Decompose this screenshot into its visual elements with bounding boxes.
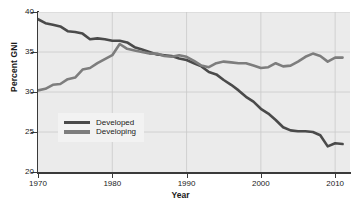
x-tick-mark xyxy=(261,173,262,178)
x-axis-title: Year xyxy=(0,190,361,200)
plot-area xyxy=(38,12,350,172)
chart-container: Percent GNI Year 2025303540 197019801990… xyxy=(0,0,361,205)
series-line-developing xyxy=(38,44,343,90)
y-tick-label: 40 xyxy=(14,8,34,16)
x-tick-label: 2000 xyxy=(241,180,281,188)
legend-swatch-developed xyxy=(64,121,90,125)
legend-item-developing: Developing xyxy=(64,128,136,136)
x-tick-mark xyxy=(112,173,113,178)
x-tick-label: 1980 xyxy=(92,180,132,188)
x-tick-mark xyxy=(38,173,39,178)
chart-legend: Developed Developing xyxy=(58,113,144,142)
y-tick-label: 30 xyxy=(14,88,34,96)
y-tick-label: 25 xyxy=(14,128,34,136)
legend-label-developing: Developing xyxy=(96,128,136,136)
legend-item-developed: Developed xyxy=(64,119,136,127)
x-tick-label: 1970 xyxy=(18,180,58,188)
x-tick-mark xyxy=(335,173,336,178)
chart-svg xyxy=(38,12,350,172)
x-axis-line xyxy=(37,172,351,174)
x-tick-label: 1990 xyxy=(167,180,207,188)
legend-swatch-developing xyxy=(64,130,90,134)
legend-label-developed: Developed xyxy=(96,119,134,127)
y-tick-label: 35 xyxy=(14,48,34,56)
x-tick-label: 2010 xyxy=(315,180,355,188)
x-tick-mark xyxy=(187,173,188,178)
y-tick-label: 20 xyxy=(14,168,34,176)
